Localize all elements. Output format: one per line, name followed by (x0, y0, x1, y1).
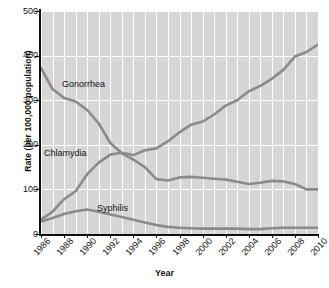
plot-area (41, 11, 318, 234)
x-axis-tick-label: 2002 (212, 236, 237, 262)
y-axis-tick-mark (35, 189, 40, 190)
x-axis-tick-label: 1990 (73, 236, 98, 262)
y-axis-tick-mark (35, 56, 40, 57)
x-axis-tick-label: 1994 (120, 236, 145, 262)
x-axis-tick-label: 2008 (281, 236, 306, 262)
series-label-chlamydia: Chlamydia (44, 148, 87, 158)
series-line-chlamydia (41, 45, 318, 220)
x-axis-title: Year (0, 268, 329, 278)
series-line-syphilis (41, 210, 318, 230)
x-axis-tick-label: 1996 (143, 236, 168, 262)
x-axis-tick-label: 2006 (258, 236, 283, 262)
x-axis-tick-label: 1992 (97, 236, 122, 262)
x-axis-tick-label: 2004 (235, 236, 260, 262)
line-chart-figure: Rate (per 100,000 population) 0100200300… (0, 0, 329, 288)
x-axis-tick-labels: 1986198819901992199419961998200020022004… (0, 236, 329, 272)
x-axis-tick-label: 2000 (189, 236, 214, 262)
x-axis-tick-label: 1986 (27, 236, 52, 262)
y-axis-tick-mark (35, 100, 40, 101)
y-axis-tick-mark (35, 145, 40, 146)
y-axis-tick-mark (35, 234, 40, 235)
x-axis-tick-label: 2010 (304, 236, 329, 262)
series-lines (41, 11, 318, 234)
x-axis-tick-label: 1988 (50, 236, 75, 262)
y-axis-line (39, 9, 41, 236)
series-label-syphilis: Syphilis (97, 203, 128, 213)
series-label-gonorrhea: Gonorrhea (62, 79, 105, 89)
x-axis-tick-label: 1998 (166, 236, 191, 262)
y-axis-tick-mark (35, 11, 40, 12)
